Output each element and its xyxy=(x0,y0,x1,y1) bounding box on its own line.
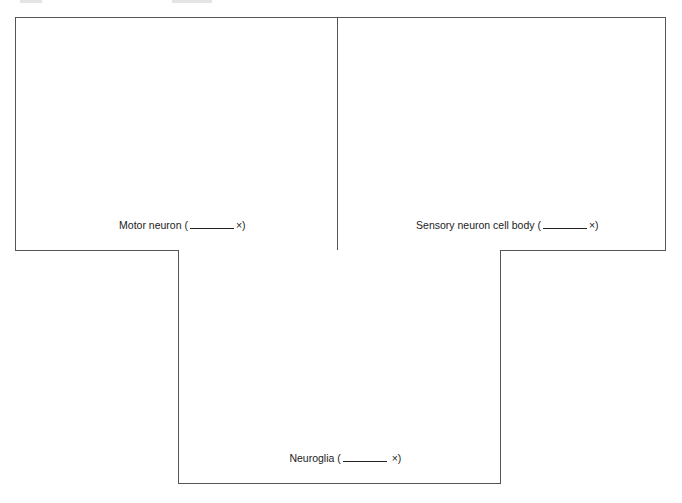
cropped-text-remnant xyxy=(20,0,42,3)
magnification-blank[interactable] xyxy=(190,220,234,229)
neuroglia-drawing-box[interactable]: Neuroglia ( ×) xyxy=(178,250,501,484)
caption-text: Sensory neuron cell body ( xyxy=(416,219,541,231)
caption-text: Neuroglia ( xyxy=(289,452,340,464)
motor-neuron-caption: Motor neuron (×) xyxy=(16,207,337,243)
sensory-neuron-drawing-box[interactable]: Sensory neuron cell body (×) xyxy=(337,17,666,251)
magnification-blank[interactable] xyxy=(343,453,387,462)
sensory-neuron-caption: Sensory neuron cell body (×) xyxy=(338,207,665,243)
caption-text: Motor neuron ( xyxy=(119,219,188,231)
caption-suffix: ×) xyxy=(389,452,402,464)
magnification-blank[interactable] xyxy=(543,220,587,229)
neuroglia-caption: Neuroglia ( ×) xyxy=(179,440,500,476)
cropped-text-remnant xyxy=(172,0,212,3)
caption-suffix: ×) xyxy=(589,219,599,231)
caption-suffix: ×) xyxy=(236,219,246,231)
motor-neuron-drawing-box[interactable]: Motor neuron (×) xyxy=(15,17,338,251)
